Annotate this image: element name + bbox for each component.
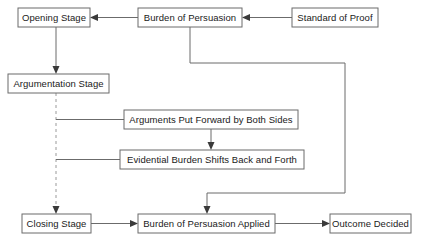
node-burden-applied[interactable]: Burden of Persuasion Applied xyxy=(138,214,275,233)
edge-standard-to-burden xyxy=(242,14,292,21)
node-label-standard-of-proof: Standard of Proof xyxy=(297,12,373,23)
node-evidential-burden[interactable]: Evidential Burden Shifts Back and Forth xyxy=(120,150,304,169)
node-burden-of-persuasion[interactable]: Burden of Persuasion xyxy=(138,8,242,27)
edge-opening-to-argumentation xyxy=(53,27,60,74)
node-label-arguments-put-forward: Arguments Put Forward by Both Sides xyxy=(129,114,293,125)
edge-applied-to-outcome xyxy=(275,220,330,227)
node-standard-of-proof[interactable]: Standard of Proof xyxy=(292,8,378,27)
node-label-evidential-burden: Evidential Burden Shifts Back and Forth xyxy=(127,154,297,165)
node-label-opening-stage: Opening Stage xyxy=(22,12,86,23)
flowchart-canvas: Opening Stage Burden of Persuasion Stand… xyxy=(0,0,422,242)
node-label-burden-of-persuasion: Burden of Persuasion xyxy=(144,12,236,23)
node-label-burden-applied: Burden of Persuasion Applied xyxy=(143,218,270,229)
node-outcome-decided[interactable]: Outcome Decided xyxy=(330,214,411,233)
edge-burden-to-opening xyxy=(90,14,138,21)
node-closing-stage[interactable]: Closing Stage xyxy=(22,214,91,233)
flowchart-diagram: Opening Stage Burden of Persuasion Stand… xyxy=(0,0,422,242)
node-label-outcome-decided: Outcome Decided xyxy=(332,218,409,229)
edge-arguments-to-evidential xyxy=(208,129,215,150)
node-arguments-put-forward[interactable]: Arguments Put Forward by Both Sides xyxy=(124,110,298,129)
node-argumentation-stage[interactable]: Argumentation Stage xyxy=(8,74,109,93)
node-label-argumentation-stage: Argumentation Stage xyxy=(13,78,103,89)
node-label-closing-stage: Closing Stage xyxy=(27,218,87,229)
node-opening-stage[interactable]: Opening Stage xyxy=(18,8,90,27)
edge-closing-to-applied xyxy=(91,220,138,227)
edge-argumentation-to-closing xyxy=(53,93,60,214)
